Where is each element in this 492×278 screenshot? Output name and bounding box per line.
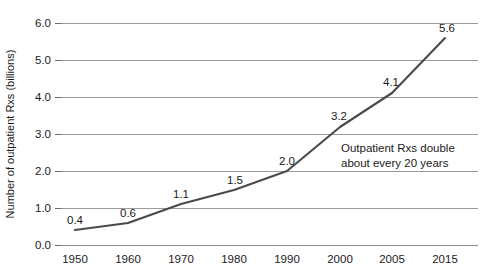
x-tick-label-1990: 1990 [274, 253, 300, 265]
data-point-labels: 0.4 0.6 1.1 1.5 2.0 3.2 4.1 5.6 [67, 22, 455, 226]
x-tick-label-1950: 1950 [62, 253, 88, 265]
point-label-1960: 0.6 [120, 207, 136, 219]
y-tick-label-4: 4.0 [35, 91, 51, 103]
point-label-2015: 5.6 [439, 22, 455, 34]
x-tick-label-1980: 1980 [221, 253, 247, 265]
point-label-2000: 3.2 [331, 110, 347, 122]
chart-container: 6.0 5.0 4.0 3.0 2.0 1.0 0.0 Number of ou… [0, 0, 492, 278]
x-tick-label-1970: 1970 [168, 253, 194, 265]
y-tick-label-6: 6.0 [35, 17, 51, 29]
y-tick-label-2: 2.0 [35, 165, 51, 177]
line-chart: 6.0 5.0 4.0 3.0 2.0 1.0 0.0 Number of ou… [0, 0, 492, 278]
point-label-2005: 4.1 [383, 76, 399, 88]
annotation-line-1: Outpatient Rxs double [341, 142, 455, 154]
x-tick-labels: 1950 1960 1970 1980 1990 2000 2005 2015 [62, 253, 458, 265]
annotation-line-2: about every 20 years [341, 157, 449, 169]
x-tick-label-2015: 2015 [432, 253, 458, 265]
y-tick-label-5: 5.0 [35, 54, 51, 66]
point-label-1950: 0.4 [67, 214, 84, 226]
y-tick-label-1: 1.0 [35, 202, 51, 214]
y-axis-title: Number of outpatient Rxs (billions) [4, 50, 16, 219]
y-tick-marks [55, 23, 61, 245]
x-tick-label-2000: 2000 [327, 253, 353, 265]
y-tick-labels: 6.0 5.0 4.0 3.0 2.0 1.0 0.0 [35, 17, 51, 251]
chart-annotation: Outpatient Rxs double about every 20 yea… [341, 142, 455, 169]
y-tick-label-0: 0.0 [35, 239, 51, 251]
y-tick-label-3: 3.0 [35, 128, 51, 140]
point-label-1990: 2.0 [279, 155, 295, 167]
point-label-1970: 1.1 [173, 188, 189, 200]
x-tick-label-1960: 1960 [115, 253, 141, 265]
gridlines [61, 23, 478, 208]
x-tick-label-2005: 2005 [379, 253, 405, 265]
point-label-1980: 1.5 [227, 174, 243, 186]
